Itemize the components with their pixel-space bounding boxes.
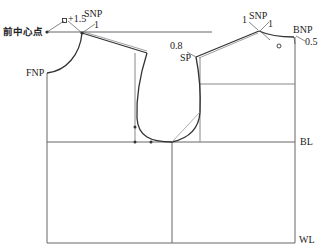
snp-front-offset-label: 1 [94,20,99,30]
back-shoulder-line [196,31,259,57]
snp-back-offset-leader [260,31,270,40]
front-center-point-label: 前中心点 [3,27,43,37]
back-neck-circle-marker [277,44,281,48]
snp-front-marker [80,31,83,34]
armhole-point-b [134,141,137,144]
back-neckline-curve [259,31,294,37]
front-shoulder-guide [84,32,147,51]
front-neckline-curve [47,33,82,73]
snp-front-label: SNP [84,9,102,19]
armhole-point-c [150,141,153,144]
bnp-leader [296,36,305,41]
back-armhole-curve [172,57,200,142]
bodice-pattern-diagram [0,0,325,252]
sp-offset-label: 0.8 [170,41,183,51]
sp-label: SP [180,53,191,63]
fnp-label: FNP [26,68,44,78]
snp-back-left-offset-label: 1 [242,15,247,25]
back-shoulder-guide [199,33,258,58]
front-shoulder-line [82,33,147,53]
waist-line-label: WL [299,235,315,245]
bnp-offset-label: 0.5 [305,37,318,47]
bust-line-label: BL [300,137,313,147]
armhole-point-a [134,126,137,129]
bnp-label: BNP [293,25,312,35]
snp-back-right-offset-label: 1 [268,19,273,29]
front-armhole-curve [137,53,172,142]
front-center-point-marker [45,30,48,33]
snp-back-label: SNP [249,11,267,21]
snp-back-leader-left [249,22,258,30]
